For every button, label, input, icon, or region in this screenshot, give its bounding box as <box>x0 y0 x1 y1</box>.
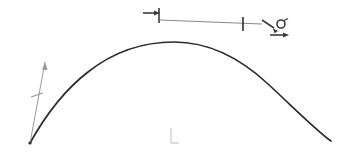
figure-canvas <box>0 0 348 154</box>
launch-point-dot <box>28 141 31 144</box>
figure-background <box>0 0 348 154</box>
trajectory-figure <box>0 0 348 154</box>
